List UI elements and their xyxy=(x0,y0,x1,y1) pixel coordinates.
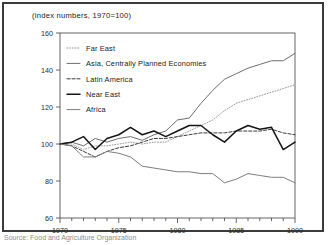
figure-frame: (index numbers, 1970=100) 60801001201401… xyxy=(2,2,324,232)
y-tick-label: 100 xyxy=(41,140,53,149)
legend-label: Africa xyxy=(86,105,107,114)
y-tick-label: 160 xyxy=(41,29,53,38)
series-line-latin-america xyxy=(60,129,295,157)
legend-label: Asia, Centrally Planned Economies xyxy=(86,59,207,68)
series-line-near-east xyxy=(60,126,295,150)
y-tick-label: 120 xyxy=(41,103,53,112)
legend-label: Near East xyxy=(86,90,120,99)
chart-legend: Far EastAsia, Centrally Planned Economie… xyxy=(67,44,207,115)
line-chart: 608010012014016019701975198019851990 Far… xyxy=(4,4,328,236)
source-note: Source: Food and Agriculture Organizatio… xyxy=(4,234,324,244)
legend-label: Latin America xyxy=(86,75,133,84)
y-tick-label: 60 xyxy=(45,214,53,223)
legend-label: Far East xyxy=(86,44,115,53)
series-lines xyxy=(60,53,295,183)
figure-page: (index numbers, 1970=100) 60801001201401… xyxy=(0,0,328,245)
y-tick-label: 140 xyxy=(41,66,53,75)
y-tick-label: 80 xyxy=(45,177,53,186)
